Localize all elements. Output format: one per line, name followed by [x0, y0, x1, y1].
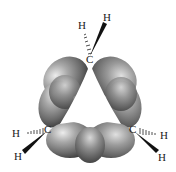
hydrogen-label-h1a: H: [78, 19, 86, 31]
wedge-bond-c1-h1b: [90, 22, 107, 56]
carbon-label-c2: C: [44, 123, 51, 135]
bond-orbital-c2-c3: [46, 122, 135, 163]
hydrogen-label-h3a: H: [160, 129, 168, 141]
hydrogen-label-h2a: H: [12, 127, 20, 139]
hashed-bond-c2-h2a: [28, 128, 43, 134]
hydrogen-label-h2b: H: [14, 150, 22, 162]
carbon-label-c3: C: [129, 123, 136, 135]
carbon-label-c1: C: [86, 53, 93, 65]
hydrogen-label-h1b: H: [103, 11, 111, 23]
cyclopropane-orbital-diagram: C C C H H H H H H: [0, 0, 176, 172]
hashed-bond-c1-h1a: [84, 34, 92, 54]
hashed-bond-c3-h3a: [140, 128, 155, 135]
hydrogen-label-h3b: H: [158, 151, 166, 163]
wedge-bond-c3-h3b: [135, 132, 159, 153]
